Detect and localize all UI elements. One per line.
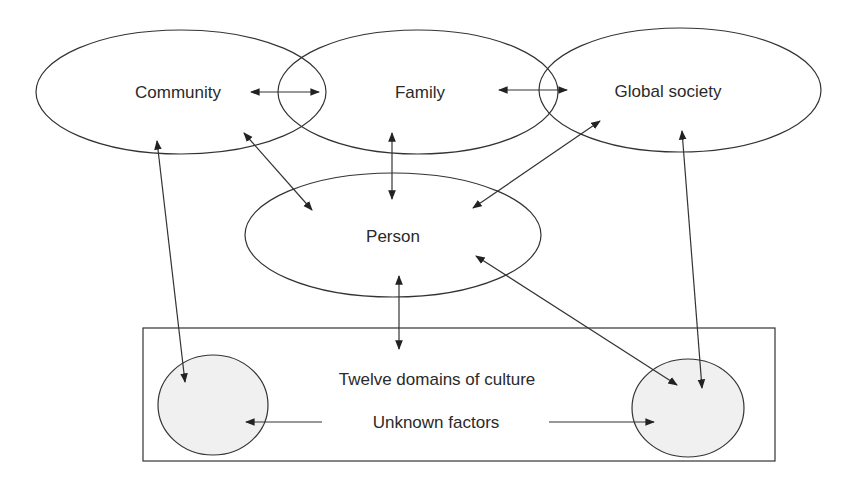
unknown-factors-right-ellipse xyxy=(632,359,744,457)
unknown-factors-label: Unknown factors xyxy=(373,413,500,432)
culture-diagram: Community Family Global society Person T… xyxy=(0,0,852,488)
unknown-factors-left-ellipse xyxy=(158,355,268,455)
culture-domains-label: Twelve domains of culture xyxy=(339,370,536,389)
community-label: Community xyxy=(135,83,221,102)
family-label: Family xyxy=(395,83,446,102)
global-society-label: Global society xyxy=(615,82,722,101)
person-label: Person xyxy=(366,227,420,246)
